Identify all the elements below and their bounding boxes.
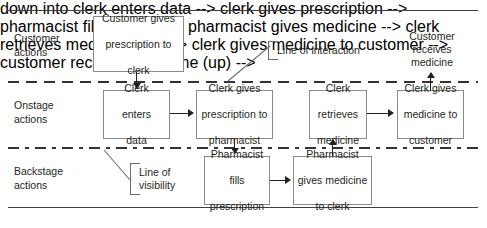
node-customer-gives-prescription[interactable]: Customer gives prescription to clerk bbox=[93, 16, 184, 72]
node-pharmacist-fills-prescription[interactable]: Pharmacist fills prescription bbox=[204, 156, 270, 205]
node-clerk-retrieves-line1: Clerk bbox=[312, 82, 364, 95]
node-pharmacist-fills-line3: prescription bbox=[207, 200, 267, 213]
leader-line-of-interaction bbox=[228, 44, 272, 84]
lane-label-customer-actions: Customer actions bbox=[14, 32, 98, 59]
arrow-pharmacist-fills-to-pharmacist-gives-head bbox=[285, 176, 291, 184]
arrow-pharmacist-gives-to-clerk-retrieves-head bbox=[329, 139, 337, 145]
lane-label-customer-line1: Customer bbox=[14, 32, 98, 46]
node-pharmacist-fills-line2: fills bbox=[207, 174, 267, 187]
arrow-clerk-retrieves-to-clerk-gives-medicine-head bbox=[388, 109, 394, 117]
node-customer-gives-line3: clerk bbox=[96, 64, 181, 77]
node-pharmacist-gives-medicine-to-clerk[interactable]: Pharmacist gives medicine to clerk bbox=[293, 156, 372, 205]
lane-label-backstage-line1: Backstage bbox=[14, 165, 98, 179]
node-customer-receives-line3: medicine bbox=[411, 56, 453, 68]
node-clerk-enters-data[interactable]: Clerk enters data bbox=[103, 90, 170, 139]
node-clerk-gives-medicine-to-customer[interactable]: Clerk gives medicine to customer bbox=[397, 90, 464, 139]
node-customer-receives-medicine: Customer receives medicine bbox=[392, 27, 472, 71]
callout-visibility-text: Line of visibility bbox=[135, 166, 175, 192]
node-clerk-retrieves-medicine[interactable]: Clerk retrieves medicine bbox=[309, 90, 367, 139]
arrow-pharmacist-fills-to-pharmacist-gives-shaft bbox=[270, 180, 286, 181]
node-pharmacist-gives-line2: gives medicine bbox=[296, 174, 369, 187]
arrow-clerk-enters-to-clerk-gives-rx-head bbox=[188, 109, 194, 117]
node-customer-receives-line2: receives bbox=[412, 43, 451, 55]
node-clerk-enters-line3: data bbox=[106, 134, 167, 147]
top-frame-rule bbox=[8, 10, 478, 11]
service-blueprint-diagram: Customer actions Onstage actions Backsta… bbox=[0, 0, 487, 228]
node-clerk-enters-line2: enters bbox=[106, 108, 167, 121]
node-clerk-gives-prescription-to-pharmacist[interactable]: Clerk gives prescription to pharmacist bbox=[196, 90, 273, 139]
arrow-clerk-retrieves-to-clerk-gives-medicine-shaft bbox=[367, 113, 389, 114]
callout-interaction-text: Line of interaction bbox=[273, 44, 360, 57]
node-pharmacist-gives-line3: to clerk bbox=[296, 200, 369, 213]
lane-label-customer-line2: actions bbox=[14, 46, 98, 60]
arrow-clerk-gives-rx-to-pharmacist-fills-head bbox=[231, 148, 239, 154]
lane-label-onstage-line1: Onstage bbox=[14, 99, 98, 113]
node-clerk-gives-medicine-line3: customer bbox=[400, 134, 461, 147]
arrow-clerk-enters-to-clerk-gives-rx-shaft bbox=[170, 113, 189, 114]
node-customer-gives-line1: Customer gives bbox=[96, 12, 181, 25]
node-clerk-gives-rx-line2: prescription to bbox=[199, 108, 270, 121]
lane-label-backstage-actions: Backstage actions bbox=[14, 165, 98, 192]
callout-visibility-line1: Line of bbox=[139, 166, 171, 178]
node-clerk-retrieves-line2: retrieves bbox=[312, 108, 364, 121]
node-customer-receives-line1: Customer bbox=[409, 30, 455, 42]
lane-label-onstage-actions: Onstage actions bbox=[14, 99, 98, 126]
lane-label-onstage-line2: actions bbox=[14, 113, 98, 127]
arrow-clerk-gives-medicine-to-customer-receives-head bbox=[427, 72, 435, 78]
arrow-pharmacist-gives-to-clerk-retrieves-shaft bbox=[332, 145, 333, 156]
node-customer-gives-line2: prescription to bbox=[96, 38, 181, 51]
callout-visibility-line2: visibility bbox=[139, 179, 175, 191]
node-clerk-retrieves-line3: medicine bbox=[312, 134, 364, 147]
node-clerk-gives-rx-line1: Clerk gives bbox=[199, 82, 270, 95]
arrow-customer-to-clerk-enters-head bbox=[133, 83, 141, 89]
lane-label-backstage-line2: actions bbox=[14, 179, 98, 193]
node-clerk-gives-medicine-line2: medicine to bbox=[400, 108, 461, 121]
callout-line-of-visibility: Line of visibility bbox=[130, 163, 186, 195]
arrow-clerk-gives-medicine-to-customer-receives-shaft bbox=[430, 78, 431, 91]
callout-line-of-interaction: Line of interaction bbox=[268, 41, 376, 60]
